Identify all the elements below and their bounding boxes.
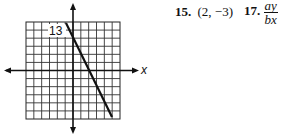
y-axis-arrow-up: [70, 3, 76, 10]
x-axis-arrow-right: [132, 68, 139, 74]
answer-text: (2, −3): [198, 4, 234, 19]
x-axis-label: x: [140, 63, 148, 77]
exercise-label: 13: [49, 24, 63, 38]
coordinate-graph: 13 x: [0, 0, 150, 135]
answer-15: 15. (2, −3): [175, 4, 233, 20]
answer-number: 15.: [175, 4, 191, 19]
fraction: ay bx: [264, 0, 278, 26]
denominator: bx: [264, 13, 278, 26]
x-axis-arrow-left: [4, 68, 11, 74]
y-axis-arrow-down: [70, 127, 76, 134]
answer-number: 17.: [244, 3, 260, 18]
answer-17: 17. ay bx: [244, 0, 278, 26]
